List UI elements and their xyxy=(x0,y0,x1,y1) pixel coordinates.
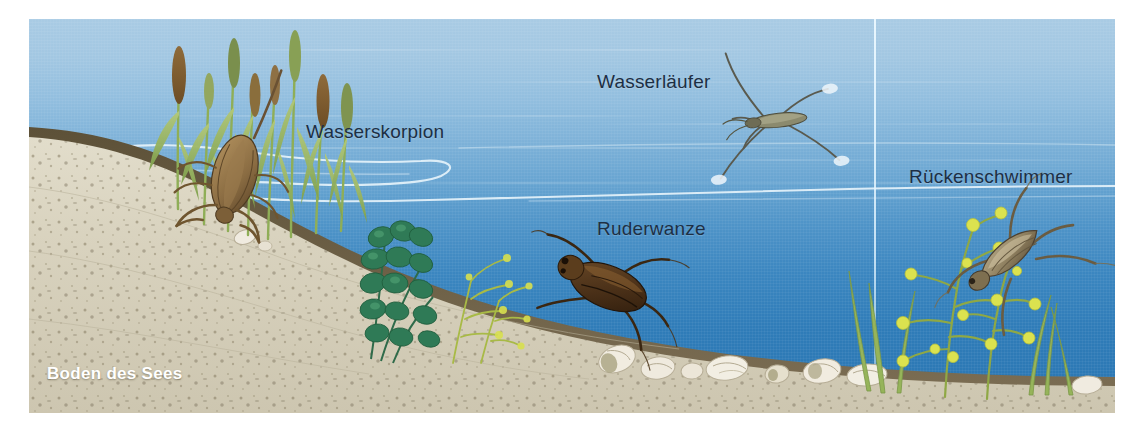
wasserlaeufer-insect xyxy=(698,42,851,186)
rueckenschwimmer-insect xyxy=(909,171,1115,371)
label-wasserskorpion: Wasserskorpion xyxy=(306,121,444,143)
label-wasserlaeufer: Wasserläufer xyxy=(597,71,711,93)
illustration-stage: Wasserskorpion Wasserläufer Ruderwanze R… xyxy=(0,0,1143,439)
label-boden-des-sees: Boden des Sees xyxy=(47,364,183,384)
label-rueckenschwimmer: Rückenschwimmer xyxy=(909,166,1072,188)
insects-layer xyxy=(29,19,1115,413)
wasserskorpion-insect xyxy=(165,52,316,250)
label-ruderwanze: Ruderwanze xyxy=(597,218,706,240)
lake-cross-section-illustration: Wasserskorpion Wasserläufer Ruderwanze R… xyxy=(29,19,1115,413)
